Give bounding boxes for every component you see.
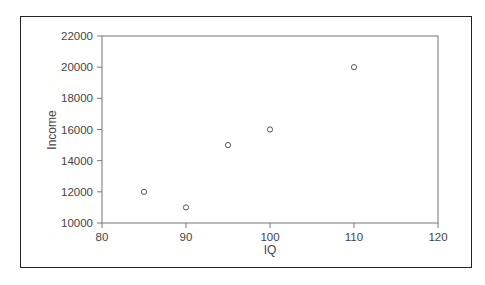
y-tick-label: 10000 bbox=[61, 217, 93, 229]
x-axis-label: IQ bbox=[264, 243, 277, 257]
x-tick-label: 90 bbox=[180, 231, 193, 243]
data-point-marker bbox=[183, 205, 188, 210]
y-axis-label: Income bbox=[45, 110, 59, 150]
y-tick-label: 20000 bbox=[61, 61, 93, 73]
x-tick-label: 80 bbox=[96, 231, 109, 243]
x-tick-label: 120 bbox=[428, 231, 447, 243]
data-point-marker bbox=[351, 65, 356, 70]
x-tick-label: 100 bbox=[260, 231, 279, 243]
plot-axes: 1000012000140001600018000200002200080901… bbox=[61, 30, 448, 243]
data-point-marker bbox=[225, 142, 230, 147]
x-tick-label: 110 bbox=[345, 231, 363, 243]
scatter-plot: 1000012000140001600018000200002200080901… bbox=[0, 0, 485, 285]
data-point-marker bbox=[267, 127, 272, 132]
y-tick-label: 14000 bbox=[61, 155, 93, 167]
y-tick-label: 16000 bbox=[61, 124, 93, 136]
y-tick-label: 18000 bbox=[61, 92, 93, 104]
y-tick-label: 12000 bbox=[61, 186, 93, 198]
data-points bbox=[141, 65, 356, 210]
y-tick-label: 22000 bbox=[61, 30, 93, 42]
data-point-marker bbox=[141, 189, 146, 194]
